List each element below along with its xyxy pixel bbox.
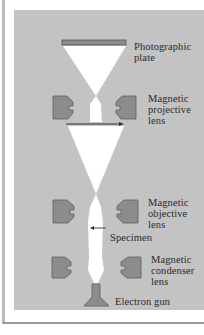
condenser-lens-left	[52, 257, 71, 278]
label-line: plate	[134, 52, 191, 63]
image-arrow-head	[119, 122, 124, 126]
label-line: condenser	[151, 265, 194, 276]
electron-gun	[84, 284, 109, 306]
label-specimen: Specimen	[110, 232, 152, 243]
objective-lens-right	[117, 200, 138, 223]
photographic-plate	[62, 40, 126, 45]
label-line: Specimen	[110, 232, 152, 243]
label-line: objective	[148, 208, 188, 219]
label-line: Magnetic	[151, 254, 194, 265]
projective-lens-right	[116, 96, 136, 119]
label-line: Electron gun	[115, 296, 170, 307]
label-objective-lens: Magnetic objective lens	[148, 197, 188, 230]
beam-lower-section	[88, 194, 104, 283]
label-line: lens	[148, 115, 191, 126]
label-line: Magnetic	[148, 93, 191, 104]
condenser-lens-right	[121, 257, 141, 278]
label-condenser-lens: Magnetic condenser lens	[151, 254, 194, 287]
label-line: lens	[151, 276, 194, 287]
label-line: Magnetic	[148, 197, 188, 208]
objective-lens-left	[53, 200, 74, 223]
label-line: lens	[148, 219, 188, 230]
label-projective-lens: Magnetic projective lens	[148, 93, 191, 126]
label-line: Photographic	[134, 41, 191, 52]
beam-projective-section	[90, 96, 102, 122]
label-photographic-plate: Photographic plate	[134, 41, 191, 63]
beam-middle-cone	[68, 126, 124, 194]
label-electron-gun: Electron gun	[115, 296, 170, 307]
projective-lens-left	[53, 96, 73, 119]
label-line: projective	[148, 104, 191, 115]
beam-upper-cone	[63, 46, 126, 96]
